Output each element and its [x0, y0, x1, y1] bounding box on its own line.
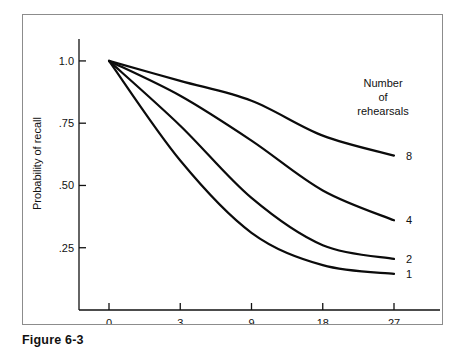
series-end-label: 4	[406, 214, 412, 226]
legend-title-line: rehearsals	[357, 105, 409, 117]
x-axis-tick-label: 9	[248, 317, 254, 324]
y-axis-tick-label: .75	[59, 117, 74, 129]
x-axis-tick-label: 0	[106, 317, 112, 324]
series-end-label: 8	[406, 150, 412, 162]
series-curve	[109, 61, 394, 259]
x-axis-tick-label: 3	[177, 317, 183, 324]
figure-caption: Figure 6-3	[22, 333, 84, 347]
y-axis-tick-label: .50	[59, 179, 74, 191]
legend-title-line: Number	[363, 77, 402, 89]
plot-frame: 1.0.75.50.250391827Retention interval (s…	[22, 14, 443, 325]
x-axis-tick-label: 18	[317, 317, 329, 324]
legend-title-line: of	[378, 91, 388, 103]
y-axis-tick-label: .25	[59, 242, 74, 254]
retention-decay-chart: 1.0.75.50.250391827Retention interval (s…	[23, 15, 442, 324]
series-end-label: 1	[406, 268, 412, 280]
series-curve	[109, 61, 394, 274]
figure-container: 1.0.75.50.250391827Retention interval (s…	[0, 0, 468, 358]
y-axis-tick-label: 1.0	[59, 55, 74, 67]
x-axis-tick-label: 27	[388, 317, 400, 324]
series-curve	[109, 61, 394, 220]
y-axis-title: Probability of recall	[31, 117, 43, 210]
series-end-label: 2	[406, 253, 412, 265]
